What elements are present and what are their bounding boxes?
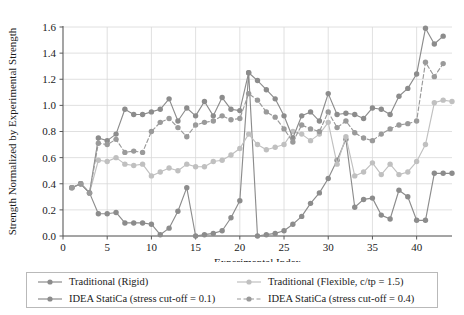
data-point [122, 161, 127, 166]
data-point [131, 148, 136, 153]
data-point [432, 41, 437, 46]
data-point [370, 138, 375, 143]
data-point [105, 142, 110, 147]
data-point [184, 134, 189, 139]
data-point [326, 109, 331, 114]
data-point [387, 161, 392, 166]
data-point [405, 121, 410, 126]
data-point [264, 87, 269, 92]
data-point [158, 120, 163, 125]
data-point [149, 129, 154, 134]
data-point [69, 185, 74, 190]
data-point [105, 211, 110, 216]
legend-item-traditional-flexible[interactable]: Traditional (Flexible, c/tp = 1.5) [232, 276, 437, 288]
data-point [396, 172, 401, 177]
data-point [308, 126, 313, 131]
data-point [122, 220, 127, 225]
data-point [149, 173, 154, 178]
data-point [361, 197, 366, 202]
data-point [237, 198, 242, 203]
data-point [290, 139, 295, 144]
data-point [228, 215, 233, 220]
data-point [272, 114, 277, 119]
data-point [246, 91, 251, 96]
data-point [423, 218, 428, 223]
chart-figure: 0.00.20.40.60.81.01.21.41.6 051015202530… [0, 0, 464, 315]
x-tick-label: 10 [146, 241, 158, 253]
y-tick-label: 1.0 [42, 99, 56, 111]
data-point [308, 138, 313, 143]
data-point [317, 129, 322, 134]
data-point [211, 118, 216, 123]
legend-swatch-traditional-rigid [37, 276, 63, 288]
data-point [246, 131, 251, 136]
data-point [193, 122, 198, 127]
data-point [219, 95, 224, 100]
data-point [211, 159, 216, 164]
legend-label-traditional-flexible: Traditional (Flexible, c/tp = 1.5) [268, 276, 404, 287]
data-point [370, 160, 375, 165]
data-point [272, 96, 277, 101]
legend-item-idea-cutoff-04[interactable]: IDEA StatiCa (stress cut-off = 0.4) [232, 293, 437, 305]
data-point [290, 222, 295, 227]
x-tick-label: 20 [234, 241, 246, 253]
data-point [379, 212, 384, 217]
data-point [202, 232, 207, 237]
legend-item-traditional-rigid[interactable]: Traditional (Rigid) [27, 276, 232, 288]
data-point [202, 120, 207, 125]
data-point [352, 205, 357, 210]
data-point [405, 194, 410, 199]
data-point [370, 195, 375, 200]
x-tick-label: 25 [279, 241, 291, 253]
data-point [158, 169, 163, 174]
data-point [211, 113, 216, 118]
data-point [149, 109, 154, 114]
data-point [343, 118, 348, 123]
data-point [272, 144, 277, 149]
data-point [423, 26, 428, 31]
data-point [175, 125, 180, 130]
x-tick-label: 30 [323, 241, 335, 253]
x-tick-label: 5 [104, 241, 110, 253]
data-point [237, 116, 242, 121]
data-point [432, 100, 437, 105]
series-line [72, 73, 452, 236]
data-point [219, 158, 224, 163]
data-point [379, 172, 384, 177]
data-point [440, 61, 445, 66]
data-point [113, 210, 118, 215]
data-point [334, 161, 339, 166]
data-point [184, 105, 189, 110]
data-point [361, 116, 366, 121]
data-point [361, 135, 366, 140]
series-idea-statica-stress-cut-off-0-1 [69, 26, 446, 196]
series-line [72, 100, 452, 193]
data-point [228, 107, 233, 112]
data-point [193, 164, 198, 169]
data-point [405, 169, 410, 174]
data-point [299, 113, 304, 118]
data-point [131, 220, 136, 225]
legend-item-idea-cutoff-01[interactable]: IDEA StatiCa (stress cut-off = 0.1) [27, 293, 232, 305]
data-point [113, 155, 118, 160]
data-point [405, 86, 410, 91]
data-point [87, 190, 92, 195]
grid-lines [63, 27, 452, 236]
x-axis-title: Experimental Index [214, 256, 302, 262]
data-point [202, 164, 207, 169]
data-point [184, 161, 189, 166]
data-point [387, 216, 392, 221]
y-tick-labels: 0.00.20.40.60.81.01.21.41.6 [42, 21, 56, 242]
data-point [396, 188, 401, 193]
data-point [166, 96, 171, 101]
legend-label-traditional-rigid: Traditional (Rigid) [69, 276, 148, 287]
data-point [264, 232, 269, 237]
x-tick-label: 35 [367, 241, 379, 253]
data-point [343, 111, 348, 116]
data-point [299, 131, 304, 136]
data-point [352, 112, 357, 117]
data-point [387, 126, 392, 131]
data-point [193, 113, 198, 118]
data-point [432, 74, 437, 79]
data-point [255, 142, 260, 147]
